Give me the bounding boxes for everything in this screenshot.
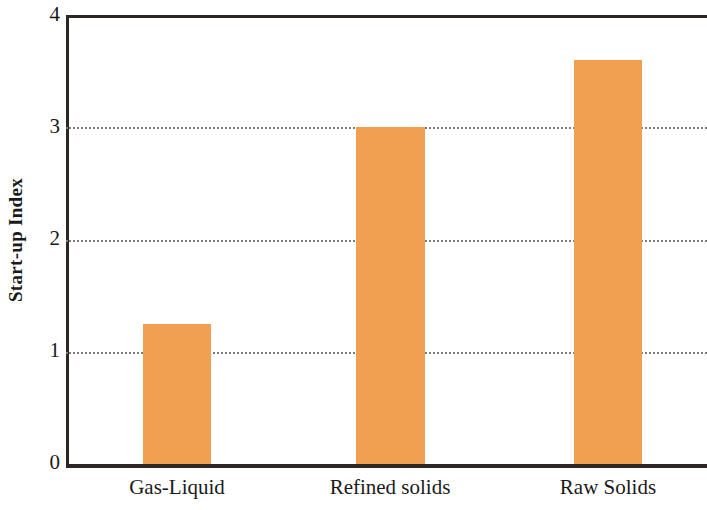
axis-line-bottom xyxy=(66,464,707,468)
bar-refined-solids xyxy=(356,127,425,464)
y-tick-label-1: 1 xyxy=(34,340,60,361)
bars-layer xyxy=(66,15,707,464)
bar-chart: Start-up Index 4 3 2 1 0 Gas-Liquid Refi… xyxy=(0,0,707,510)
plot-area xyxy=(66,15,707,464)
y-axis-title-text: Start-up Index xyxy=(5,178,27,302)
y-tick-label-4: 4 xyxy=(34,4,60,25)
y-tick-label-3: 3 xyxy=(34,116,60,137)
bar-raw-solids xyxy=(574,60,642,464)
y-axis-title: Start-up Index xyxy=(0,0,32,480)
y-tick-label-2: 2 xyxy=(34,228,60,249)
x-axis-tick-labels: Gas-Liquid Refined solids Raw Solids xyxy=(0,476,707,510)
bar-gas-liquid xyxy=(143,324,211,464)
y-tick-label-0: 0 xyxy=(34,452,60,473)
x-tick-label-refined-solids: Refined solids xyxy=(310,476,470,499)
x-tick-label-gas-liquid: Gas-Liquid xyxy=(97,476,257,499)
y-axis-tick-labels: 4 3 2 1 0 xyxy=(30,0,60,510)
x-tick-label-raw-solids: Raw Solids xyxy=(528,476,688,499)
